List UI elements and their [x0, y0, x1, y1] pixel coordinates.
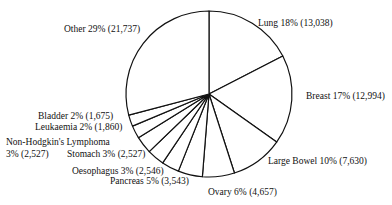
label-nhl: Non-Hodgkin's Lymphoma [6, 137, 110, 148]
label-leukaemia: Leukaemia 2% (1,860) [35, 122, 122, 133]
label-oesophagus: Oesophagus 3% (2,546) [72, 166, 164, 177]
pie-chart [0, 0, 392, 205]
label-nhl-value: 3% (2,527) [6, 149, 49, 160]
label-pancreas: Pancreas 5% (3,543) [110, 176, 189, 187]
label-breast: Breast 17% (12,994) [306, 91, 385, 102]
label-other: Other 29% (21,737) [64, 24, 140, 35]
label-large-bowel: Large Bowel 10% (7,630) [268, 156, 367, 167]
pie-slices [126, 11, 292, 177]
label-ovary: Ovary 6% (4,657) [208, 187, 277, 198]
label-bladder: Bladder 2% (1,675) [38, 111, 113, 122]
label-stomach: Stomach 3% (2,527) [67, 149, 145, 160]
label-lung: Lung 18% (13,038) [258, 18, 333, 29]
